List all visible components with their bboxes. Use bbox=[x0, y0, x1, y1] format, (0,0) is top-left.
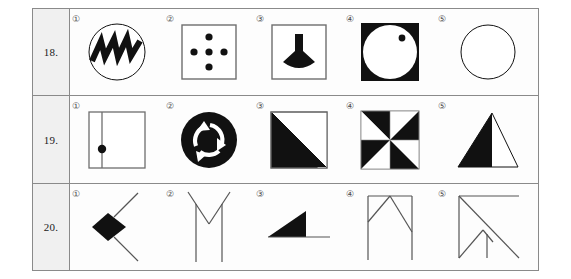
row-number-cell: 20. bbox=[33, 184, 70, 270]
table-row: 19. ① ② bbox=[33, 96, 538, 184]
row-number-label: 19. bbox=[44, 134, 58, 146]
square-half-black-diagonal-icon bbox=[254, 96, 344, 183]
square-with-five-dots-icon bbox=[164, 9, 254, 95]
option-cell-18-3[interactable]: ③ bbox=[254, 9, 344, 95]
option-cell-20-3[interactable]: ③ bbox=[254, 184, 344, 270]
option-group: ① ② bbox=[70, 9, 538, 95]
empty-circle-icon bbox=[436, 9, 540, 95]
option-group: ① ② bbox=[70, 184, 538, 270]
option-group: ① ② bbox=[70, 96, 538, 183]
table-row: 20. ① ② bbox=[33, 184, 538, 270]
v-with-two-vertical-lines-icon bbox=[164, 184, 254, 270]
black-disc-recycle-arrows-icon bbox=[164, 96, 254, 183]
option-cell-20-2[interactable]: ② bbox=[164, 184, 254, 270]
row-number-label: 20. bbox=[44, 221, 58, 233]
option-cell-19-5[interactable]: ⑤ bbox=[436, 96, 540, 183]
square-with-diagonals-and-post-icon bbox=[436, 184, 540, 270]
row-number-cell: 19. bbox=[33, 96, 70, 183]
square-with-line-and-dot-icon bbox=[70, 96, 164, 183]
figure-table: 18. ① ② bbox=[32, 8, 539, 271]
option-cell-19-3[interactable]: ③ bbox=[254, 96, 344, 183]
option-cell-18-2[interactable]: ② bbox=[164, 9, 254, 95]
pinwheel-eight-triangles-icon bbox=[344, 96, 436, 183]
answer-sheet-figures: 18. ① ② bbox=[0, 0, 571, 279]
black-diamond-with-two-lines-icon bbox=[70, 184, 164, 270]
row-number-label: 18. bbox=[44, 46, 58, 58]
option-cell-18-4[interactable]: ④ bbox=[344, 9, 436, 95]
option-cell-19-2[interactable]: ② bbox=[164, 96, 254, 183]
option-cell-19-1[interactable]: ① bbox=[70, 96, 164, 183]
two-posts-with-peak-icon bbox=[344, 184, 436, 270]
circle-with-zigzag-icon bbox=[70, 9, 164, 95]
square-with-black-vase-icon bbox=[254, 9, 344, 95]
black-right-triangle-with-line-icon bbox=[254, 184, 344, 270]
row-number-cell: 18. bbox=[33, 9, 70, 95]
option-cell-20-5[interactable]: ⑤ bbox=[436, 184, 540, 270]
option-cell-18-1[interactable]: ① bbox=[70, 9, 164, 95]
option-cell-20-1[interactable]: ① bbox=[70, 184, 164, 270]
option-cell-18-5[interactable]: ⑤ bbox=[436, 9, 540, 95]
option-cell-20-4[interactable]: ④ bbox=[344, 184, 436, 270]
table-row: 18. ① ② bbox=[33, 9, 538, 96]
triangle-left-half-black-icon bbox=[436, 96, 540, 183]
black-square-white-circle-dot-icon bbox=[344, 9, 436, 95]
option-cell-19-4[interactable]: ④ bbox=[344, 96, 436, 183]
